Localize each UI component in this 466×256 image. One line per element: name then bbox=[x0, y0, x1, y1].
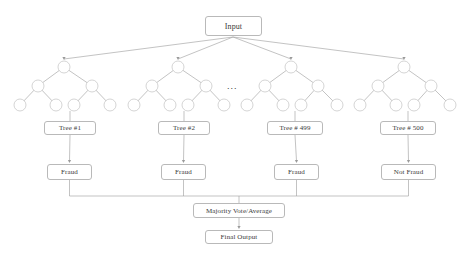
ellipsis-label: ... bbox=[227, 82, 238, 91]
tree-label-box-4[interactable]: Tree # 500 bbox=[380, 121, 436, 135]
tree-label-box-1[interactable]: Tree #1 bbox=[44, 121, 96, 135]
prediction-box-3[interactable]: Fraud bbox=[274, 164, 319, 180]
prediction-box-4[interactable]: Not Fraud bbox=[381, 164, 436, 180]
prediction-box-2[interactable]: Fraud bbox=[161, 164, 206, 180]
prediction-box-1[interactable]: Fraud bbox=[47, 164, 92, 180]
final-output-box[interactable]: Final Output bbox=[205, 230, 273, 244]
aggregate-box[interactable]: Majority Vote/Average bbox=[193, 203, 285, 218]
diagram-canvas: Input ... Tree #1Tree #2Tree # 499Tree #… bbox=[0, 0, 466, 256]
tree-label-box-3[interactable]: Tree # 499 bbox=[267, 121, 323, 135]
tree-label-box-2[interactable]: Tree #2 bbox=[158, 121, 210, 135]
input-box[interactable]: Input bbox=[205, 16, 262, 36]
